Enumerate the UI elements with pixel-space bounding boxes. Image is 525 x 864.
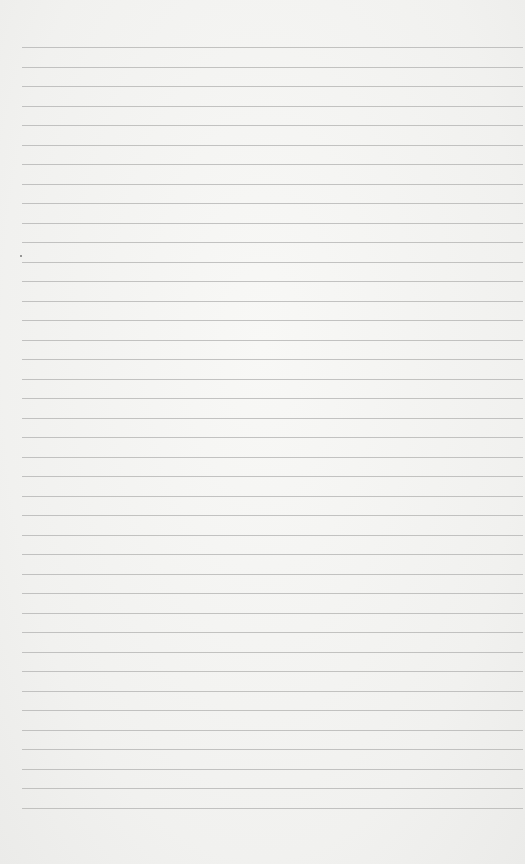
ruled-line <box>22 340 523 341</box>
ruled-line <box>22 418 523 419</box>
ruled-line <box>22 632 523 633</box>
ruled-line <box>22 671 523 672</box>
ruled-line <box>22 145 523 146</box>
ruled-line <box>22 106 523 107</box>
ruled-line <box>22 476 523 477</box>
ruled-line <box>22 359 523 360</box>
ruled-line <box>22 652 523 653</box>
ruled-line <box>22 301 523 302</box>
ruled-line <box>22 593 523 594</box>
ruled-line <box>22 262 523 263</box>
ruled-line <box>22 320 523 321</box>
ruled-line <box>22 613 523 614</box>
ruled-line <box>22 184 523 185</box>
ink-dot <box>20 255 22 257</box>
ruled-line <box>22 574 523 575</box>
ruled-line <box>22 164 523 165</box>
ruled-line <box>22 710 523 711</box>
ruled-line <box>22 535 523 536</box>
ruled-line <box>22 730 523 731</box>
ruled-line <box>22 67 523 68</box>
ruled-line <box>22 515 523 516</box>
ruled-line <box>22 554 523 555</box>
ruled-line <box>22 437 523 438</box>
ruled-line <box>22 496 523 497</box>
ruled-line <box>22 203 523 204</box>
ruled-line <box>22 281 523 282</box>
ruled-line <box>22 749 523 750</box>
ruled-line <box>22 223 523 224</box>
ruled-line <box>22 86 523 87</box>
ruled-line <box>22 808 523 809</box>
ruled-line <box>22 379 523 380</box>
lined-paper <box>0 0 525 864</box>
ruled-line <box>22 242 523 243</box>
ruled-line <box>22 125 523 126</box>
ruled-line <box>22 47 523 48</box>
ruled-line <box>22 398 523 399</box>
ruled-line <box>22 691 523 692</box>
ruled-line <box>22 769 523 770</box>
ruled-line <box>22 457 523 458</box>
ruled-line <box>22 788 523 789</box>
